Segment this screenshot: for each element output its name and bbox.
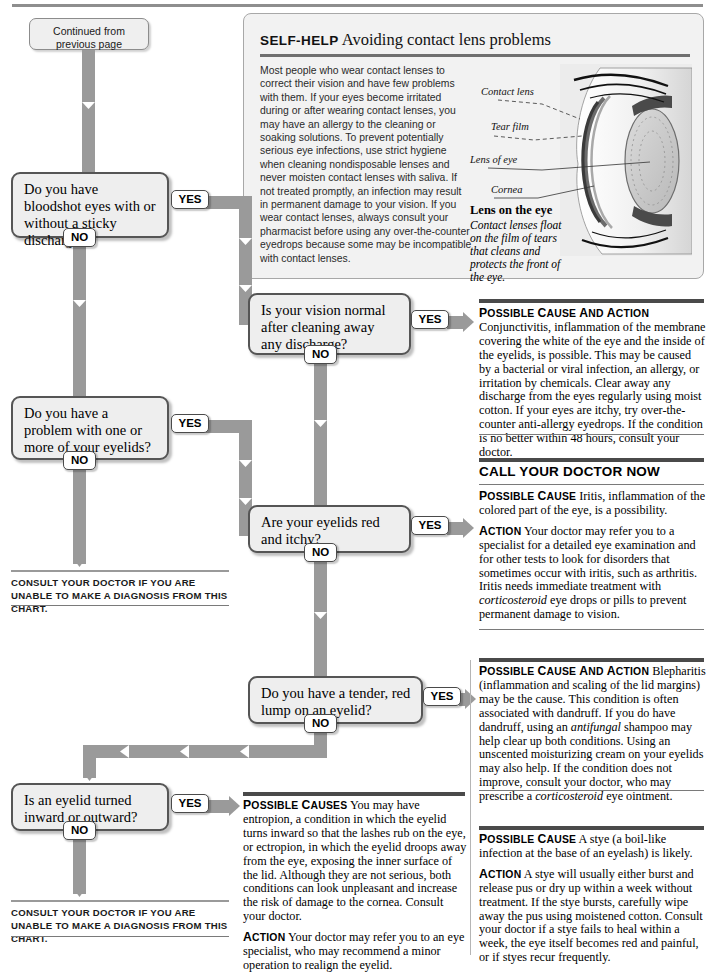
result-iritis: POSSIBLE CAUSE Iritis, inflammation of t… bbox=[479, 490, 706, 629]
iritis-cause-label: POSSIBLE CAUSE bbox=[479, 491, 576, 502]
consult-note-1: Consult your doctor if you are unable to… bbox=[11, 576, 236, 615]
consult-note-rule-top bbox=[11, 570, 229, 572]
q6-no-label[interactable]: NO bbox=[63, 821, 96, 840]
consult-note-rule-bottom bbox=[11, 605, 229, 606]
conjunctivitis-label: POSSIBLE CAUSE AND ACTION bbox=[479, 308, 649, 319]
result-conjunctivitis: POSSIBLE CAUSE AND ACTION Conjunctivitis… bbox=[479, 307, 706, 467]
iritis-action-text: Your doctor may refer you to a specialis… bbox=[479, 524, 697, 621]
entropion-cause-label: POSSIBLE CAUSES bbox=[243, 800, 347, 811]
iritis-rule-bottom bbox=[479, 629, 704, 630]
connector-q2-yes-arrow bbox=[447, 316, 463, 329]
self-help-title-text: Avoiding contact lens problems bbox=[342, 30, 551, 49]
self-help-rule bbox=[260, 54, 690, 57]
q1-no-label[interactable]: NO bbox=[63, 228, 96, 247]
connector-continued-to-q1 bbox=[82, 50, 95, 172]
q3-no-label[interactable]: NO bbox=[63, 451, 96, 470]
column-divider bbox=[470, 660, 471, 955]
consult-note-2-rule-top bbox=[11, 900, 229, 902]
q5-yes-label[interactable]: YES bbox=[423, 687, 461, 706]
blepharitis-rule-bottom bbox=[479, 790, 704, 791]
self-help-kicker: SELF-HELP bbox=[260, 33, 339, 48]
conjunctivitis-rule-bottom bbox=[479, 434, 704, 435]
q5-no-label[interactable]: NO bbox=[304, 714, 337, 733]
question-text-q3: Do you have a problem with one or more o… bbox=[24, 405, 151, 455]
artwork-caption-heading: Lens on the eye bbox=[470, 203, 552, 218]
entropion-cause-text: You may have entropion, a condition in w… bbox=[243, 798, 466, 923]
connector-q4-yes-arrow bbox=[447, 522, 463, 535]
blepharitis-text: Blepharitis (inflammation and scaling of… bbox=[479, 664, 706, 803]
result-entropion: POSSIBLE CAUSES You may have entropion, … bbox=[243, 799, 467, 976]
q3-yes-label[interactable]: YES bbox=[171, 414, 209, 433]
call-doctor-rule-under bbox=[479, 484, 704, 485]
self-help-body: Most people who wear contact lenses to c… bbox=[260, 64, 472, 265]
connector-q1-no-v bbox=[73, 238, 86, 396]
stye-cause-label: POSSIBLE CAUSE bbox=[479, 834, 576, 845]
self-help-panel: SELF-HELP Avoiding contact lens problems… bbox=[243, 13, 704, 279]
consult-note-2-rule-bottom bbox=[11, 936, 229, 937]
iritis-action-label: ACTION bbox=[479, 526, 521, 537]
conjunctivitis-text: Conjunctivitis, inflammation of the memb… bbox=[479, 320, 705, 459]
q1-yes-label[interactable]: YES bbox=[171, 190, 209, 209]
q2-no-label[interactable]: NO bbox=[304, 345, 337, 364]
entropion-rule-top bbox=[243, 792, 465, 796]
consult-note-2: Consult your doctor if you are unable to… bbox=[11, 906, 236, 945]
stye-action-text: A stye will usually either burst and rel… bbox=[479, 867, 703, 964]
continued-from-previous-page-box: Continued from previous page bbox=[29, 18, 149, 50]
artwork-caption-body: Contact lenses float on the film of tear… bbox=[470, 219, 575, 284]
q4-no-label[interactable]: NO bbox=[304, 543, 337, 562]
blepharitis-label: POSSIBLE CAUSE AND ACTION bbox=[479, 666, 649, 677]
call-your-doctor-now-heading: CALL YOUR DOCTOR NOW bbox=[479, 464, 660, 479]
continued-line-2: previous page bbox=[56, 38, 122, 50]
label-cornea: Cornea bbox=[491, 184, 523, 195]
question-text-q5: Do you have a tender, red lump on an eye… bbox=[261, 685, 410, 718]
label-tear-film: Tear film bbox=[491, 121, 529, 132]
label-contact-lens: Contact lens bbox=[481, 86, 534, 97]
entropion-action-label: ACTION bbox=[243, 932, 285, 943]
call-doctor-rule-top bbox=[479, 458, 704, 462]
q6-yes-label[interactable]: YES bbox=[171, 794, 209, 813]
conjunctivitis-rule-top bbox=[479, 299, 704, 303]
top-rule bbox=[12, 4, 703, 7]
stye-rule-top bbox=[479, 826, 704, 830]
eye-cross-section-illustration: Contact lens Tear film Lens of eye Corne… bbox=[482, 64, 692, 264]
stye-action-label: ACTION bbox=[479, 869, 521, 880]
q4-yes-label[interactable]: YES bbox=[411, 516, 449, 535]
continued-line-1: Continued from bbox=[53, 25, 125, 37]
blepharitis-rule-top bbox=[479, 658, 704, 662]
self-help-title: SELF-HELP Avoiding contact lens problems bbox=[260, 30, 690, 50]
connector-q2-no-v bbox=[314, 356, 327, 516]
label-lens-of-eye: Lens of eye bbox=[470, 154, 517, 165]
q2-yes-label[interactable]: YES bbox=[411, 310, 449, 329]
result-stye: POSSIBLE CAUSE A stye (a boil-like infec… bbox=[479, 833, 706, 972]
connector-q3-no-v bbox=[73, 460, 86, 564]
connector-q6-no-v bbox=[73, 832, 86, 894]
